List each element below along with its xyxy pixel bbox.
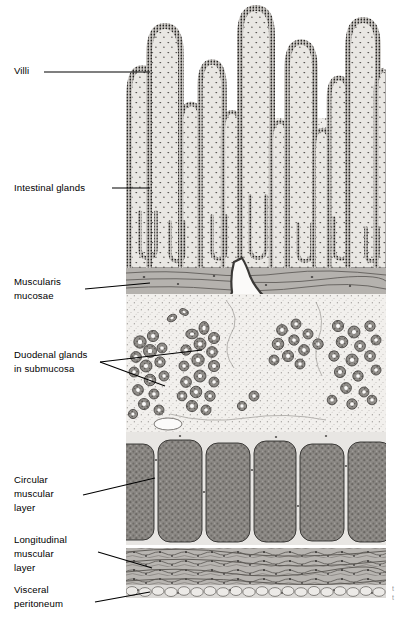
layer-visceral-peritoneum xyxy=(126,585,386,598)
villus xyxy=(149,26,181,268)
label-villi: Villi xyxy=(14,64,29,78)
label-intestinal-glands: Intestinal glands xyxy=(14,181,85,195)
label-duodenal-glands: Duodenal glands in submucosa xyxy=(14,348,88,376)
caption-fragment-line2: t xyxy=(392,594,406,603)
layer-circular-muscle xyxy=(126,432,386,545)
label-circular-muscular-layer: Circular muscular layer xyxy=(14,473,54,515)
figure-root: Villi Intestinal glands Muscularis mucos… xyxy=(0,0,406,630)
layer-submucosa xyxy=(126,294,386,434)
villus xyxy=(348,20,378,268)
label-longitudinal-muscular-layer: Longitudinal muscular layer xyxy=(14,533,67,575)
caption-fragment-line1: t xyxy=(392,585,406,594)
histology-illustration-svg xyxy=(126,0,386,600)
label-muscularis-mucosae: Muscularis mucosae xyxy=(14,275,61,303)
label-visceral-peritoneum: Visceral peritoneum xyxy=(14,583,63,611)
layer-longitudinal-muscle xyxy=(126,548,386,586)
histology-illustration xyxy=(126,0,386,600)
